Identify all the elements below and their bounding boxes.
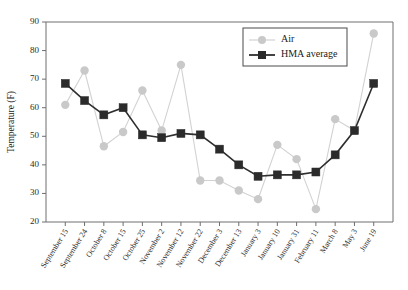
data-point-air xyxy=(312,205,320,213)
data-point-hma-average xyxy=(331,151,339,159)
data-point-hma-average xyxy=(100,111,108,119)
y-tick-label: 50 xyxy=(30,130,40,140)
legend-swatch-marker-hma xyxy=(258,51,266,59)
data-point-hma-average xyxy=(216,145,224,153)
y-tick-label: 20 xyxy=(30,216,40,226)
data-point-air xyxy=(138,86,146,94)
data-point-hma-average xyxy=(254,172,262,180)
y-tick-label: 80 xyxy=(30,45,40,55)
data-point-air xyxy=(80,66,88,74)
data-point-hma-average xyxy=(138,131,146,139)
data-point-air xyxy=(254,195,262,203)
data-point-hma-average xyxy=(61,79,69,87)
data-point-air xyxy=(215,176,223,184)
data-point-hma-average xyxy=(235,161,243,169)
x-tick-label: June 19 xyxy=(358,227,379,253)
data-point-air xyxy=(177,61,185,69)
data-point-hma-average xyxy=(370,79,378,87)
y-tick-label: 60 xyxy=(30,102,40,112)
data-point-air xyxy=(196,176,204,184)
data-point-hma-average xyxy=(273,171,281,179)
temperature-line-chart: Temperature (F) 2030405060708090 Septemb… xyxy=(0,0,408,290)
legend-swatch-marker-air xyxy=(258,36,266,44)
data-point-air xyxy=(331,115,339,123)
data-point-air xyxy=(292,155,300,163)
legend-label-air: Air xyxy=(281,33,295,44)
legend-label-hma: HMA average xyxy=(281,48,338,59)
data-point-air xyxy=(235,186,243,194)
data-point-air xyxy=(119,128,127,136)
chart-canvas: Temperature (F) 2030405060708090 Septemb… xyxy=(0,0,408,290)
data-point-hma-average xyxy=(177,129,185,137)
data-point-hma-average xyxy=(350,127,358,135)
data-point-air xyxy=(61,101,69,109)
data-point-air xyxy=(100,142,108,150)
y-axis-title: Temperature (F) xyxy=(6,91,17,153)
data-point-hma-average xyxy=(81,97,89,105)
data-point-hma-average xyxy=(119,104,127,112)
y-axis: 2030405060708090 xyxy=(30,16,46,226)
x-tick-label: March 8 xyxy=(318,227,340,255)
y-tick-label: 40 xyxy=(30,159,40,169)
data-point-hma-average xyxy=(293,171,301,179)
data-point-air xyxy=(273,141,281,149)
x-axis: September 15September 24October 8October… xyxy=(39,222,379,270)
data-point-hma-average xyxy=(196,131,204,139)
y-axis-title-text: Temperature (F) xyxy=(6,91,17,153)
data-point-air xyxy=(370,29,378,37)
data-point-hma-average xyxy=(158,134,166,142)
y-tick-label: 70 xyxy=(30,73,40,83)
legend-border xyxy=(243,28,347,66)
x-tick-label: May 3 xyxy=(341,227,360,249)
chart-legend: Air HMA average xyxy=(243,28,347,66)
series-line-hma-average xyxy=(65,83,373,176)
data-point-hma-average xyxy=(312,168,320,176)
y-tick-label: 30 xyxy=(30,187,40,197)
y-tick-label: 90 xyxy=(30,16,40,26)
